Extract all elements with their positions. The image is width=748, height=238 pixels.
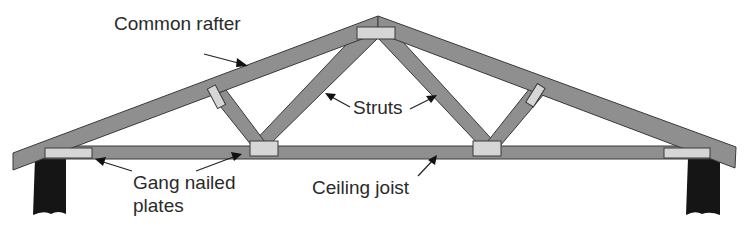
- label-gang-nailed-line1: Gang nailed: [133, 172, 235, 194]
- arrow-strut-right: [410, 95, 437, 109]
- label-ceiling-joist: Ceiling joist: [312, 177, 409, 199]
- label-common-rafter: Common rafter: [114, 13, 241, 35]
- truss-drawing: [0, 0, 748, 238]
- right-wall-post: [686, 158, 720, 215]
- label-gang-nailed-line2: plates: [133, 195, 184, 217]
- gang-nailed-plate-joist-right: [473, 141, 501, 156]
- gang-nailed-plate-left-heel: [45, 148, 92, 158]
- roof-truss-diagram: Common rafter Struts Gang nailed plates …: [0, 0, 748, 238]
- gang-nailed-plate-apex: [357, 27, 395, 39]
- left-wall-post: [33, 158, 66, 215]
- arrow-strut-left: [325, 93, 350, 107]
- gang-nailed-plate-joist-left: [250, 141, 278, 156]
- ceiling-joist: [44, 146, 710, 159]
- label-struts: Struts: [353, 97, 403, 119]
- gang-nailed-plate-right-heel: [664, 148, 710, 158]
- arrow-common-rafter: [204, 54, 248, 67]
